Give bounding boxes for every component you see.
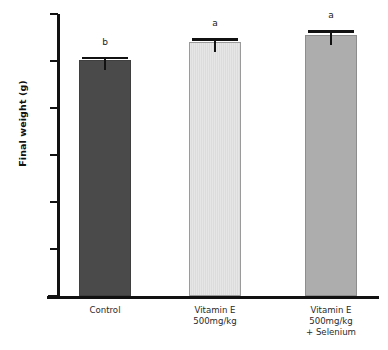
error-bar-cap — [192, 38, 238, 41]
bar-chart-figure: Final weight (g) 020406080100120baa Cont… — [0, 0, 388, 350]
bar — [189, 42, 241, 296]
significance-letter: b — [75, 37, 135, 47]
y-axis-tick — [50, 107, 58, 109]
x-axis-category-line: 500mg/kg — [160, 316, 270, 327]
significance-letter: a — [185, 18, 245, 28]
x-axis-category-label: Vitamin E500mg/kg — [160, 305, 270, 327]
y-axis-title: Final weight (g) — [17, 44, 28, 204]
x-axis-category-line: Vitamin E — [276, 305, 386, 316]
error-bar-cap — [82, 57, 128, 60]
y-axis-tick — [50, 154, 58, 156]
y-axis-tick — [50, 13, 58, 15]
x-axis-category-line: + Selenium — [276, 327, 386, 338]
error-bar-cap — [308, 30, 354, 33]
plot-area: 020406080100120baa — [57, 14, 382, 296]
error-bar — [82, 57, 128, 71]
significance-letter: a — [301, 10, 361, 20]
error-bar — [192, 38, 238, 52]
y-axis-tick — [50, 201, 58, 203]
x-axis-category-label: Vitamin E500mg/kg+ Selenium — [276, 305, 386, 338]
x-axis-category-label: Control — [50, 305, 160, 316]
y-axis-tick — [50, 248, 58, 250]
y-axis-tick — [50, 60, 58, 62]
x-axis-category-line: 500mg/kg — [276, 316, 386, 327]
bar — [79, 60, 131, 296]
y-axis-tick — [48, 295, 58, 297]
x-axis-spine — [47, 296, 379, 299]
bar — [305, 35, 357, 296]
error-bar — [308, 30, 354, 45]
x-axis-category-line: Vitamin E — [160, 305, 270, 316]
x-axis-category-line: Control — [50, 305, 160, 316]
